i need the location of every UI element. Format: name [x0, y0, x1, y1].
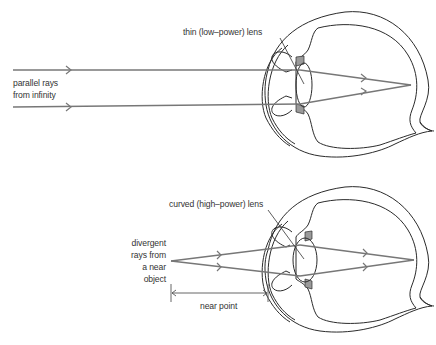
top-eye-cornea: [262, 48, 290, 146]
bottom-eye-optic-nerve: [420, 297, 434, 306]
bottom-source-label-line1: divergent: [118, 237, 166, 249]
top-eye-optic-nerve: [420, 122, 434, 131]
bottom-source-label-line4: object: [118, 273, 166, 285]
top-source-label-line1: parallel rays: [13, 77, 58, 89]
bottom-lens-label: curved (high–power) lens: [169, 198, 263, 210]
top-source-label-line2: from infinity: [13, 89, 56, 101]
top-ray-lower-refracted: [300, 85, 411, 104]
top-lens-label: thin (low–power) lens: [183, 26, 262, 38]
bottom-source-label-line2: rays from: [118, 249, 166, 261]
top-eye-iris-lower: [272, 96, 292, 116]
bottom-eye-ciliary-upper: [305, 231, 312, 241]
top-eye-ciliary-upper: [296, 56, 304, 66]
bottom-eye-ciliary-lower: [305, 279, 312, 289]
top-ray-lower-incoming: [13, 104, 300, 107]
top-ray-upper-refracted: [300, 70, 411, 85]
top-ray-lower-inner-arrow-icon: [361, 88, 366, 95]
near-point-label: near point: [200, 300, 237, 312]
top-eye-ciliary-lower: [296, 104, 304, 114]
bottom-source-label-line3: a near: [118, 261, 166, 273]
bottom-divergent-rays: [171, 245, 414, 276]
eye-accommodation-diagram: [0, 0, 436, 345]
bottom-ray-lower-incoming: [171, 261, 300, 276]
top-parallel-rays: [13, 66, 411, 111]
bottom-ray-upper-incoming: [171, 245, 300, 261]
